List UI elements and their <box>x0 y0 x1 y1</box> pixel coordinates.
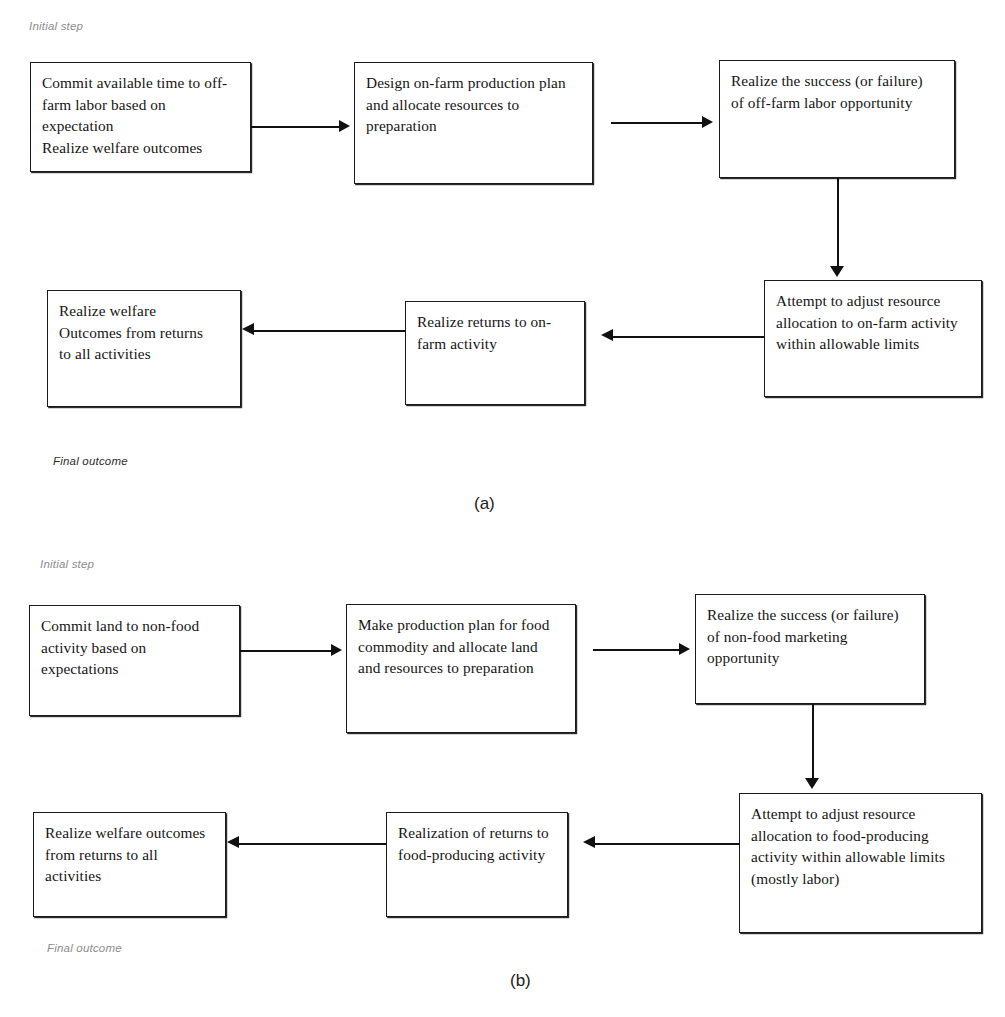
node-text-line: expectations <box>41 658 230 680</box>
panel-a-node-realize-welfare-outcomes: Realize welfare Outcomes from returns to… <box>47 290 241 407</box>
panel-a-node-commit-time-off-farm: Commit available time to off- farm labor… <box>30 62 251 172</box>
arrowhead-left-icon <box>601 329 613 341</box>
connector-a4-to-a5 <box>613 336 764 338</box>
connector-a1-to-a2 <box>251 126 341 128</box>
arrowhead-right-icon <box>339 120 350 132</box>
node-text-line: Realize welfare outcomes <box>42 137 241 159</box>
panel-b-node-realize-non-food-marketing-success: Realize the success (or failure) of non-… <box>695 594 925 704</box>
node-text-line: expectation <box>42 115 241 137</box>
arrowhead-left-icon <box>583 836 595 848</box>
node-text-line: allocation to on-farm activity <box>776 312 972 334</box>
node-text-line: Design on-farm production plan <box>366 72 583 94</box>
panel-a-node-attempt-adjust-on-farm: Attempt to adjust resource allocation to… <box>764 280 982 397</box>
node-text-line: of off-farm labor opportunity <box>731 92 945 114</box>
panel-a-node-realize-returns-on-farm: Realize returns to on- farm activity <box>405 301 585 405</box>
connector-b5-to-b6 <box>239 843 386 845</box>
panel-b-node-realize-welfare-outcomes: Realize welfare outcomes from returns to… <box>33 812 226 917</box>
node-text-line: to all activities <box>59 343 231 365</box>
panel-a-caption: (a) <box>474 494 495 514</box>
node-text-line: food-producing activity <box>398 844 558 866</box>
panel-b-node-attempt-adjust-food-producing: Attempt to adjust resource allocation to… <box>739 793 982 933</box>
connector-a3-to-a4 <box>837 178 839 268</box>
node-text-line: of non-food marketing <box>707 626 915 648</box>
figure-page: Initial step Commit available time to of… <box>0 0 1005 1017</box>
node-text-line: Commit available time to off- <box>42 72 241 94</box>
node-text-line: (mostly labor) <box>751 868 972 890</box>
node-text-line: Commit land to non-food <box>41 615 230 637</box>
connector-a5-to-a6 <box>254 330 405 332</box>
node-text-line: from returns to all <box>45 844 216 866</box>
panel-a-final-outcome-label: Final outcome <box>53 455 128 467</box>
panel-b-initial-step-label: Initial step <box>40 558 94 570</box>
connector-b1-to-b2 <box>240 650 333 652</box>
node-text-line: Realize returns to on- <box>417 311 575 333</box>
connector-b2-to-b3 <box>593 649 681 651</box>
arrowhead-left-icon <box>242 323 254 335</box>
node-text-line: activities <box>45 865 216 887</box>
arrowhead-right-icon <box>679 643 690 655</box>
arrowhead-left-icon <box>227 836 239 848</box>
connector-b3-to-b4 <box>812 704 814 780</box>
node-text-line: Realize the success (or failure) <box>707 604 915 626</box>
arrowhead-down-icon <box>805 778 819 789</box>
node-text-line: farm labor based on <box>42 94 241 116</box>
node-text-line: within allowable limits <box>776 333 972 355</box>
node-text-line: farm activity <box>417 333 575 355</box>
panel-b-node-make-food-production-plan: Make production plan for food commodity … <box>346 604 576 733</box>
node-text-line: and allocate resources to <box>366 94 583 116</box>
node-text-line: opportunity <box>707 647 915 669</box>
panel-b-node-commit-land-non-food: Commit land to non-food activity based o… <box>29 605 240 716</box>
panel-b-final-outcome-label: Final outcome <box>47 942 122 954</box>
node-text-line: Realization of returns to <box>398 822 558 844</box>
node-text-line: commodity and allocate land <box>358 636 566 658</box>
node-text-line: Make production plan for food <box>358 614 566 636</box>
connector-b4-to-b5 <box>595 843 739 845</box>
node-text-line: Realize welfare <box>59 300 231 322</box>
node-text-line: Outcomes from returns <box>59 322 231 344</box>
panel-b-node-realization-returns-food-producing: Realization of returns to food-producing… <box>386 812 568 917</box>
arrowhead-right-icon <box>702 116 713 128</box>
connector-a2-to-a3 <box>611 122 704 124</box>
panel-a-node-realize-off-farm-success: Realize the success (or failure) of off-… <box>719 60 955 178</box>
node-text-line: allocation to food-producing <box>751 825 972 847</box>
arrowhead-down-icon <box>830 266 844 277</box>
node-text-line: preparation <box>366 115 583 137</box>
node-text-line: Realize welfare outcomes <box>45 822 216 844</box>
arrowhead-right-icon <box>331 644 342 656</box>
node-text-line: Realize the success (or failure) <box>731 70 945 92</box>
node-text-line: Attempt to adjust resource <box>751 803 972 825</box>
panel-a-node-design-on-farm-plan: Design on-farm production plan and alloc… <box>354 62 593 184</box>
node-text-line: Attempt to adjust resource <box>776 290 972 312</box>
node-text-line: activity based on <box>41 637 230 659</box>
node-text-line: and resources to preparation <box>358 657 566 679</box>
panel-b-caption: (b) <box>510 971 531 991</box>
node-text-line: activity within allowable limits <box>751 846 972 868</box>
panel-a-initial-step-label: Initial step <box>29 20 83 32</box>
